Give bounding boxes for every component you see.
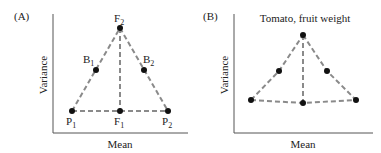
panel-b-dashed-lines [251, 35, 356, 103]
point-b2 [141, 67, 147, 73]
panel-b-y-label: Variance [218, 56, 230, 95]
panel-b: (B) Tomato, fruit weight Mean Variance [203, 10, 373, 150]
diagram-canvas: (A) Mean Variance P1 F1 P2 F2 B1 B2 [0, 0, 381, 153]
point-p1 [69, 108, 75, 114]
label-p1: P1 [66, 115, 76, 130]
point-f1 [300, 100, 306, 106]
panel-a-dashed-lines [72, 28, 168, 111]
point-b2 [324, 68, 330, 74]
panel-a: (A) Mean Variance P1 F1 P2 F2 B1 B2 [14, 10, 188, 150]
label-b2: B2 [143, 53, 154, 68]
label-f2: F2 [114, 12, 124, 27]
panel-a-y-label: Variance [37, 56, 49, 95]
panel-b-tag: (B) [203, 10, 218, 23]
point-p1 [248, 97, 254, 103]
label-f1: F1 [114, 115, 124, 130]
panel-a-tag: (A) [14, 10, 30, 23]
panel-b-x-label: Mean [290, 138, 316, 150]
label-b1: B1 [83, 53, 94, 68]
label-p2: P2 [162, 115, 172, 130]
point-f2 [300, 32, 306, 38]
point-p2 [165, 108, 171, 114]
panel-b-title: Tomato, fruit weight [260, 12, 351, 24]
point-p2 [353, 97, 359, 103]
point-f1 [117, 108, 123, 114]
point-b1 [276, 68, 282, 74]
panel-a-x-label: Mean [107, 138, 133, 150]
